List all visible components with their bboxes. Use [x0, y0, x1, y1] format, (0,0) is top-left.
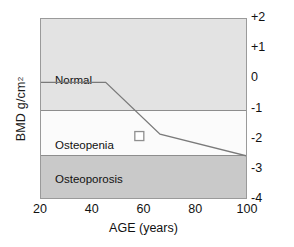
bmd-decline-curve: [41, 82, 247, 156]
x-tick-label: 100: [237, 203, 258, 216]
x-axis-label: AGE (years): [40, 221, 247, 235]
y-axis-label-text: BMD g/cm: [14, 81, 28, 141]
y-tick-label: +1: [251, 41, 265, 54]
bmd-age-chart: BMD g/cm2 Normal Osteopenia Osteoporosis…: [0, 0, 294, 247]
x-tick-label: 20: [33, 203, 47, 216]
y-tick-label: -1: [251, 102, 262, 115]
curve-overlay: [41, 19, 247, 199]
y-tick-label: +2: [251, 11, 265, 24]
y-tick-label: -2: [251, 132, 262, 145]
y-axis-label: BMD g/cm2: [10, 19, 32, 200]
plot-area: Normal Osteopenia Osteoporosis: [40, 18, 247, 199]
x-tick-label: 40: [85, 203, 99, 216]
patient-measurement-marker[interactable]: [135, 132, 144, 141]
x-tick-label: 60: [137, 203, 151, 216]
x-tick-label: 80: [188, 203, 202, 216]
y-tick-label: 0: [251, 71, 258, 84]
y-tick-label: -3: [251, 162, 262, 175]
